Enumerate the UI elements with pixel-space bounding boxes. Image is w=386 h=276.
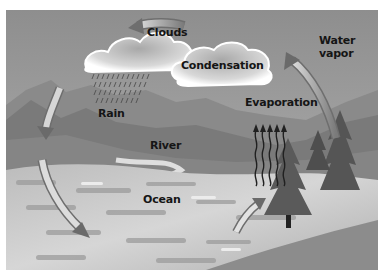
label-evaporation: Evaporation bbox=[245, 97, 318, 109]
label-condensation: Condensation bbox=[181, 60, 264, 72]
label-clouds: Clouds bbox=[147, 27, 187, 39]
label-water-vapor-line2: vapor bbox=[319, 48, 353, 60]
label-water-vapor-line1: Water bbox=[319, 35, 355, 47]
label-ocean: Ocean bbox=[143, 194, 181, 206]
label-rain: Rain bbox=[98, 108, 125, 120]
label-river: River bbox=[150, 140, 181, 152]
water-cycle-diagram: Clouds Condensation Water vapor Evaporat… bbox=[6, 10, 378, 270]
